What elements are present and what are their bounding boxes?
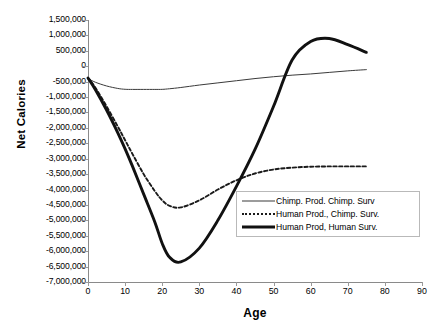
y-tick-mark <box>83 66 88 67</box>
legend-item-label: Human Prod, Human Surv. <box>276 221 377 233</box>
y-tick-mark <box>83 220 88 221</box>
y-tick-mark <box>83 128 88 129</box>
y-tick-mark <box>83 236 88 237</box>
x-tick-label: 60 <box>296 286 326 296</box>
y-axis-line <box>88 20 89 282</box>
y-tick-label: -500,000 <box>24 77 86 86</box>
y-tick-mark <box>83 112 88 113</box>
y-tick-mark <box>83 159 88 160</box>
y-tick-mark <box>83 35 88 36</box>
y-tick-mark <box>83 143 88 144</box>
y-tick-mark <box>83 174 88 175</box>
y-tick-label: -5,000,000 <box>24 215 86 224</box>
x-tick-label: 0 <box>73 286 103 296</box>
x-tick-label: 90 <box>407 286 432 296</box>
y-tick-mark <box>83 97 88 98</box>
y-tick-label: -3,000,000 <box>24 154 86 163</box>
y-tick-label: 1,000,000 <box>24 30 86 39</box>
y-tick-mark <box>83 190 88 191</box>
y-tick-label: -6,000,000 <box>24 246 86 255</box>
legend-item[interactable]: Human Prod, Human Surv. <box>240 220 416 233</box>
y-tick-label: 0 <box>24 61 86 70</box>
legend-swatch-thin-solid-icon <box>240 195 276 207</box>
y-tick-mark <box>83 267 88 268</box>
y-tick-label: -7,000,000 <box>24 277 86 286</box>
legend-item-label: Human Prod., Chimp. Surv. <box>276 208 379 220</box>
y-tick-mark <box>83 251 88 252</box>
x-tick-label: 10 <box>110 286 140 296</box>
series-line <box>88 70 366 90</box>
y-axis-tick-labels: 1,500,0001,000,000500,0000-500,000-1,000… <box>20 0 86 330</box>
y-tick-label: -2,000,000 <box>24 123 86 132</box>
legend-swatch-thick-solid-icon <box>240 221 276 233</box>
y-tick-mark <box>83 20 88 21</box>
y-tick-label: -6,500,000 <box>24 262 86 271</box>
legend-swatch-dashed-icon <box>240 208 276 220</box>
chart-legend: Chimp. Prod. Chimp. Surv Human Prod., Ch… <box>236 191 420 237</box>
x-tick-label: 50 <box>259 286 289 296</box>
y-tick-label: -4,000,000 <box>24 185 86 194</box>
x-tick-label: 80 <box>370 286 400 296</box>
y-tick-mark <box>83 205 88 206</box>
y-tick-mark <box>83 51 88 52</box>
series-line <box>88 78 366 208</box>
x-tick-label: 20 <box>147 286 177 296</box>
y-tick-label: -2,500,000 <box>24 138 86 147</box>
y-tick-label: -1,500,000 <box>24 107 86 116</box>
x-tick-label: 40 <box>221 286 251 296</box>
legend-item-label: Chimp. Prod. Chimp. Surv <box>276 195 375 207</box>
y-tick-label: -4,500,000 <box>24 200 86 209</box>
y-tick-mark <box>83 82 88 83</box>
x-tick-label: 70 <box>333 286 363 296</box>
y-tick-label: 1,500,000 <box>24 15 86 24</box>
y-tick-label: -1,000,000 <box>24 92 86 101</box>
x-tick-label: 30 <box>184 286 214 296</box>
legend-item[interactable]: Human Prod., Chimp. Surv. <box>240 207 416 220</box>
x-axis-line <box>88 282 422 283</box>
legend-item[interactable]: Chimp. Prod. Chimp. Surv <box>240 194 416 207</box>
y-tick-label: 500,000 <box>24 46 86 55</box>
y-tick-label: -3,500,000 <box>24 169 86 178</box>
chart-canvas: Net Calories 1,500,0001,000,000500,0000-… <box>0 0 432 330</box>
y-tick-label: -5,500,000 <box>24 231 86 240</box>
x-axis-title: Age <box>88 306 422 320</box>
